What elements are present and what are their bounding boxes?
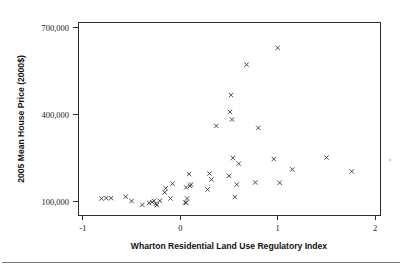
x-axis-title: Wharton Residential Land Use Regulatory … — [131, 241, 327, 251]
data-point — [209, 177, 213, 181]
data-point — [253, 180, 257, 184]
data-point — [237, 161, 241, 165]
data-point — [229, 93, 233, 97]
data-point — [324, 155, 328, 159]
scatter-plot-figure: 100,000400,000700,000 -1012 2005 Mean Ho… — [0, 0, 402, 265]
data-point — [163, 190, 167, 194]
y-tick-label: 700,000 — [41, 23, 69, 33]
data-point — [129, 199, 133, 203]
data-point — [140, 203, 144, 207]
data-point — [214, 124, 218, 128]
data-point — [124, 195, 128, 199]
data-point — [244, 62, 248, 66]
y-tick-label: 400,000 — [41, 110, 69, 120]
x-tick-label: -1 — [79, 223, 86, 233]
data-point — [109, 196, 113, 200]
data-point — [184, 185, 188, 189]
scan-speck — [389, 159, 391, 161]
data-point — [205, 187, 209, 191]
chart-canvas: 100,000400,000700,000 -1012 2005 Mean Ho… — [0, 0, 402, 265]
data-point — [290, 167, 294, 171]
data-point — [155, 203, 159, 207]
x-tick-label: 0 — [178, 223, 182, 233]
data-point — [228, 110, 232, 114]
data-point — [227, 174, 231, 178]
data-point — [350, 169, 354, 173]
data-point — [231, 156, 235, 160]
data-point — [276, 46, 280, 50]
x-tick-label: 1 — [276, 223, 280, 233]
data-point-series — [99, 46, 354, 208]
x-tick-label: 2 — [373, 223, 377, 233]
plot-frame — [78, 22, 380, 215]
data-point — [256, 126, 260, 130]
data-point — [235, 182, 239, 186]
data-point — [104, 196, 108, 200]
data-point — [158, 199, 162, 203]
data-point — [233, 195, 237, 199]
data-point — [189, 182, 193, 186]
x-axis-ticks: -1012 — [79, 215, 377, 233]
y-axis-title: 2005 Mean House Price (2000$) — [16, 55, 26, 183]
data-point — [272, 157, 276, 161]
data-point — [207, 171, 211, 175]
data-point — [185, 196, 189, 200]
data-point — [277, 181, 281, 185]
data-point — [168, 196, 172, 200]
data-point — [187, 172, 191, 176]
data-point — [163, 186, 167, 190]
y-axis-ticks: 100,000400,000700,000 — [41, 23, 78, 207]
data-point — [99, 196, 103, 200]
data-point — [230, 117, 234, 121]
data-point — [170, 181, 174, 185]
y-tick-label: 100,000 — [41, 197, 69, 207]
